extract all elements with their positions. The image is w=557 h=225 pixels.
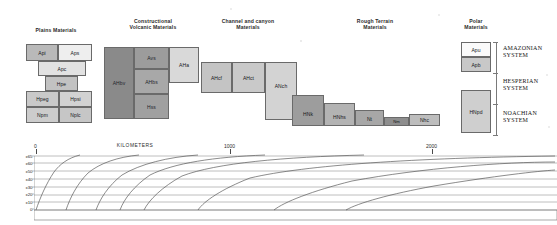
correlation-chart-figure: Plains Materials Constructional Volcanic… [0,0,557,225]
unit-box-ahbv[interactable]: AHbv [104,47,134,119]
system-label-amazonian: AMAZONIAN SYSTEM [503,45,542,60]
unit-box-apc[interactable]: Apc [38,61,86,76]
scan-speckle [300,40,302,42]
system-tick-amazonian-top [493,42,498,43]
lat-label-65: ±65° [12,154,34,159]
column-heading-polar: Polar Materials [446,18,506,31]
unit-box-apb[interactable]: Apb [461,57,491,72]
unit-box-aha[interactable]: AHa [169,47,199,83]
column-heading-volcanic: Constructional Volcanic Materials [108,18,198,31]
scan-speckle [548,126,550,128]
system-label-noachian: NOACHIAN SYSTEM [503,110,537,125]
system-bracket-vertical [496,42,497,135]
unit-box-apu[interactable]: Apu [461,42,491,57]
system-tick-noachian-bottom [493,135,498,136]
scale-bar-title: KILOMETERS [100,143,170,148]
latitude-distance-graph [34,154,557,221]
unit-box-nt[interactable]: Nt [355,110,384,126]
unit-box-hpsi[interactable]: Hpsi [59,91,92,107]
unit-box-hnk[interactable]: HNk [292,95,324,126]
graph-gridlines [34,156,557,210]
unit-box-api[interactable]: Api [26,44,58,61]
unit-box-hpe[interactable]: Hpe [45,76,78,91]
scan-speckle [230,8,232,10]
scan-speckle [546,74,548,76]
unit-box-npm[interactable]: Npm [26,107,59,123]
scan-speckle [438,14,440,16]
column-heading-rough: Rough Terrain Materials [320,18,430,31]
unit-box-nhc[interactable]: Nhc [409,114,440,126]
unit-box-ahct[interactable]: AHct [232,62,265,93]
unit-box-hnhs[interactable]: HNhs [324,103,355,126]
unit-box-ahbs[interactable]: AHbs [134,69,169,94]
unit-box-hss[interactable]: Hss [134,94,169,119]
system-label-hesperian: HESPERIAN SYSTEM [503,78,538,93]
unit-box-aps[interactable]: Aps [58,44,92,61]
system-tick-noachian-top [493,104,498,105]
lat-label-30: ±30° [12,185,34,190]
lat-label-0: 0° [12,207,34,212]
lat-label-40: ±40° [12,177,34,182]
system-tick-hesperian-top [493,73,498,74]
lat-label-50: ±50° [12,169,34,174]
unit-box-avs[interactable]: Avs [134,47,169,69]
column-heading-plains: Plains Materials [18,27,94,33]
unit-box-nplc[interactable]: Nplc [59,107,92,123]
lat-label-20: ±20° [12,192,34,197]
lat-label-10: ±10° [12,200,34,205]
unit-box-nm[interactable]: Nm [384,117,409,126]
graph-frame [34,156,557,220]
lat-label-60: ±60° [12,161,34,166]
column-heading-channel: Channel and canyon Materials [200,18,296,31]
unit-box-hpeg[interactable]: Hpeg [26,91,59,107]
unit-box-ahcf[interactable]: AHcf [201,62,232,93]
unit-box-hnpd[interactable]: HNpd [461,90,491,133]
